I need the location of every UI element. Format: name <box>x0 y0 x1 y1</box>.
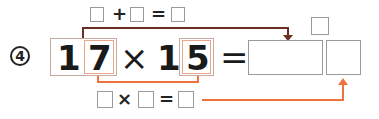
bottom-helper-multiply: × <box>117 90 132 108</box>
multiplicand-ones-digit: 7 <box>88 41 112 75</box>
equals-sign: = <box>220 40 249 74</box>
bottom-helper-box-a[interactable] <box>97 91 113 108</box>
multiplier-tens-digit: 1 <box>157 41 181 75</box>
answer-box-ones[interactable] <box>326 40 361 75</box>
bottom-helper-box-b[interactable] <box>138 91 154 108</box>
bottom-helper-result-box[interactable] <box>178 91 194 108</box>
multiplier-ones-digit: 5 <box>186 41 210 75</box>
bottom-helper-equals: = <box>159 90 174 108</box>
carry-box[interactable] <box>311 17 329 35</box>
answer-box-main[interactable] <box>248 40 323 75</box>
problem-number-badge: 4 <box>10 46 30 66</box>
multiply-sign: × <box>120 41 149 75</box>
multiplicand-tens-digit: 1 <box>57 41 81 75</box>
